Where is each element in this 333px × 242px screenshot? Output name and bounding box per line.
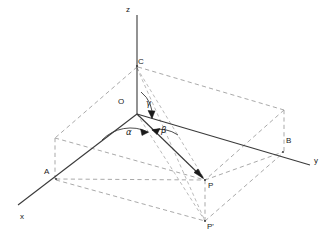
dashed-rightrear-to-P	[205, 110, 284, 180]
dashed-A-to-P	[56, 179, 205, 180]
x-axis-label: x	[20, 213, 24, 221]
dashed-P-to-B	[205, 152, 283, 180]
point-markers	[55, 65, 284, 222]
marker-P	[204, 179, 206, 181]
beta-arrowhead	[152, 129, 160, 135]
dashed-C-to-rightrear	[138, 67, 284, 110]
internal-dashed-helpers	[137, 68, 205, 221]
coordinate-system-svg	[0, 0, 333, 242]
dashed-C-to-leftrear	[55, 67, 137, 138]
point-label-O: O	[118, 98, 124, 106]
dashed-A-to-Pprime	[56, 180, 205, 221]
point-label-P: P	[208, 182, 213, 190]
axis-lines	[18, 15, 310, 205]
vertical-dashed-posts	[55, 110, 284, 221]
diagram-canvas: z x y O C A B P P' α β γ	[0, 0, 333, 242]
y-axis-label: y	[314, 157, 318, 165]
dashed-O-to-Pprime	[137, 114, 205, 221]
dashed-C-to-Pprime	[137, 68, 205, 221]
angle-label-beta: β	[161, 126, 166, 135]
marker-A	[55, 178, 57, 180]
angle-label-alpha: α	[126, 128, 132, 137]
marker-B	[282, 151, 284, 153]
x-axis-line	[18, 114, 137, 205]
point-label-C: C	[138, 58, 144, 66]
dashed-Pprime-to-B	[205, 153, 283, 221]
point-label-B: B	[286, 137, 291, 145]
z-axis-label: z	[126, 6, 130, 14]
bottom-face-dashed-edges	[56, 152, 283, 221]
point-label-P-prime: P'	[207, 223, 214, 231]
point-label-A: A	[44, 168, 49, 176]
marker-Pprime	[204, 220, 206, 222]
angle-label-gamma: γ	[146, 99, 151, 108]
